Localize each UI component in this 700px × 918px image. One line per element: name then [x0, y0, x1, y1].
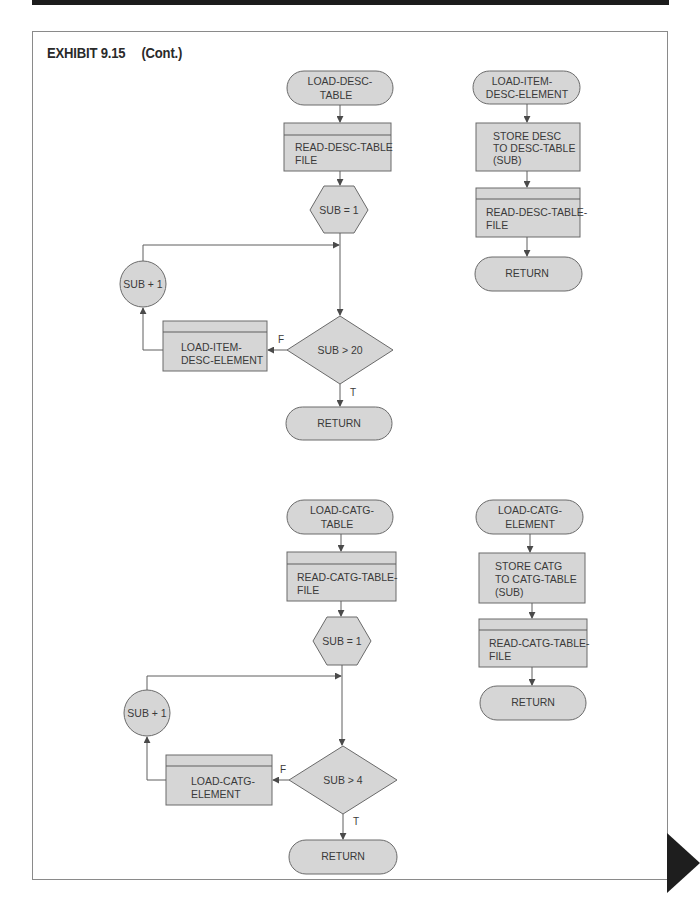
process-read-catg-table-file: READ-CATG-TABLE- FILE [287, 552, 398, 601]
process-label-line1: LOAD-ITEM- [181, 341, 242, 353]
process-label-line2: DESC-ELEMENT [181, 354, 264, 366]
terminal-label-line1: LOAD-DESC- [308, 75, 373, 87]
terminal-label: RETURN [505, 267, 549, 279]
decision-label: SUB > 4 [323, 774, 363, 786]
terminal-return: RETURN [480, 686, 586, 720]
process-label-line3: (SUB) [493, 154, 522, 166]
terminal-label: RETURN [511, 696, 555, 708]
terminal-label-line1: LOAD-ITEM- [492, 75, 553, 87]
process-label-line2: FILE [297, 584, 319, 596]
terminal-label-line1: LOAD-CATG- [310, 504, 374, 516]
terminal-label-line2: ELEMENT [505, 518, 555, 530]
process-label-line2: TO DESC-TABLE [493, 142, 575, 154]
process-load-item-desc-element: LOAD-ITEM- DESC-ELEMENT [163, 321, 267, 371]
process-label-line2: TO CATG-TABLE [495, 573, 577, 585]
process-label-line1: READ-DESC-TABLE- [486, 206, 588, 218]
process-label-line1: LOAD-CATG- [191, 775, 255, 787]
process-load-catg-element: LOAD-CATG- ELEMENT [166, 755, 272, 805]
decision-sub-gt-4: SUB > 4 [289, 746, 397, 814]
preparation-sub-init: SUB = 1 [313, 617, 371, 665]
process-label-line1: READ-CATG-TABLE- [489, 637, 590, 649]
terminal-return: RETURN [475, 257, 582, 291]
preparation-label: SUB = 1 [319, 204, 359, 216]
terminal-load-catg-element: LOAD-CATG- ELEMENT [476, 500, 583, 534]
process-label-line1: READ-CATG-TABLE- [297, 571, 398, 583]
next-page-triangle-icon [667, 833, 700, 893]
process-label-line2: FILE [295, 154, 317, 166]
terminal-load-item-desc-element: LOAD-ITEM- DESC-ELEMENT [473, 71, 580, 104]
flowchart-load-catg-table: LOAD-CATG- TABLE READ-CATG-TABLE- FILE S… [124, 500, 398, 874]
connector-sub-increment: SUB + 1 [124, 690, 170, 736]
terminal-label-line2: TABLE [321, 518, 353, 530]
connector-label: SUB + 1 [127, 707, 167, 719]
process-store-desc: STORE DESC TO DESC-TABLE (SUB) [476, 123, 580, 171]
terminal-label: RETURN [321, 850, 365, 862]
terminal-label-line2: DESC-ELEMENT [486, 88, 569, 100]
connector-label: SUB + 1 [123, 278, 163, 290]
terminal-return: RETURN [289, 840, 397, 874]
false-branch-label: F [278, 334, 284, 345]
false-branch-label: F [280, 764, 286, 775]
true-branch-label: T [350, 387, 356, 398]
process-label-line1: STORE DESC [493, 130, 561, 142]
flowchart-load-desc-table: LOAD-DESC- TABLE READ-DESC-TABLE FILE SU… [120, 71, 393, 440]
connector-sub-increment: SUB + 1 [120, 261, 166, 307]
terminal-load-catg-table: LOAD-CATG- TABLE [287, 500, 393, 534]
process-label-line1: READ-DESC-TABLE [295, 141, 393, 153]
flowchart-load-catg-element: LOAD-CATG- ELEMENT STORE CATG TO CATG-TA… [476, 500, 590, 720]
process-read-desc-table-file: READ-DESC-TABLE- FILE [476, 188, 588, 237]
process-label-line2: FILE [486, 219, 508, 231]
process-label-line2: ELEMENT [191, 788, 241, 800]
terminal-load-desc-table: LOAD-DESC- TABLE [287, 71, 393, 105]
true-branch-label: T [353, 816, 359, 827]
process-store-catg: STORE CATG TO CATG-TABLE (SUB) [479, 553, 585, 603]
process-label-line1: STORE CATG [495, 560, 562, 572]
process-read-desc-table-file: READ-DESC-TABLE FILE [284, 123, 393, 171]
flowchart-canvas: LOAD-DESC- TABLE READ-DESC-TABLE FILE SU… [0, 0, 700, 918]
decision-sub-gt-20: SUB > 20 [287, 316, 393, 384]
preparation-label: SUB = 1 [322, 635, 362, 647]
process-label-line3: (SUB) [495, 586, 524, 598]
terminal-return: RETURN [286, 407, 392, 440]
process-label-line2: FILE [489, 650, 511, 662]
preparation-sub-init: SUB = 1 [310, 186, 368, 233]
process-read-catg-table-file: READ-CATG-TABLE- FILE [479, 619, 590, 667]
terminal-label-line1: LOAD-CATG- [498, 504, 562, 516]
flowchart-load-item-desc-element: LOAD-ITEM- DESC-ELEMENT STORE DESC TO DE… [473, 71, 588, 291]
decision-label: SUB > 20 [317, 344, 362, 356]
terminal-label-line2: TABLE [320, 89, 352, 101]
terminal-label: RETURN [317, 417, 361, 429]
